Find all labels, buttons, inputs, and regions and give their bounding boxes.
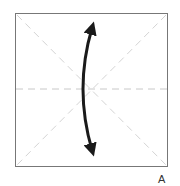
origami-diagram xyxy=(0,0,180,186)
step-label: A xyxy=(158,173,165,185)
